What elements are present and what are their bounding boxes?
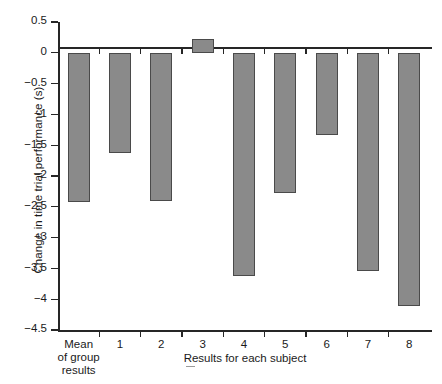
bar (233, 53, 255, 276)
y-tick-label: −0.5 (24, 76, 47, 88)
y-tick-label: −1 (34, 107, 47, 119)
y-tick: −3 (51, 237, 58, 238)
y-tick: −2.5 (51, 206, 58, 207)
y-tick-label: 0.5 (31, 14, 47, 26)
y-tick: −2 (51, 175, 58, 176)
bar (150, 53, 172, 201)
y-tick-label: −3 (34, 230, 47, 242)
x-tick (305, 330, 306, 337)
x-tick (140, 330, 141, 337)
bar (68, 53, 90, 202)
bar (109, 53, 131, 153)
zero-line-tick (347, 48, 348, 54)
y-tick: 0 (51, 52, 58, 53)
y-tick-label: −4 (34, 292, 47, 304)
y-tick-label: −2.5 (24, 199, 47, 211)
zero-line-tick (140, 48, 141, 54)
y-tick: −0.5 (51, 83, 58, 84)
zero-line-tick (223, 48, 224, 54)
zero-line-tick (181, 48, 182, 54)
y-tick: −4.5 (51, 329, 58, 330)
zero-line-tick (99, 48, 100, 54)
x-tick (264, 330, 265, 337)
y-tick: −1.5 (51, 145, 58, 146)
y-tick-label: −1.5 (24, 138, 47, 150)
y-tick: −3.5 (51, 268, 58, 269)
x-tick-label: 8 (383, 338, 436, 351)
x-tick (181, 330, 182, 337)
bar-chart: Change in time trial performance (s) 0.5… (0, 0, 442, 384)
y-axis-line (58, 22, 60, 331)
zero-baseline (58, 47, 432, 49)
y-tick-label: −2 (34, 168, 47, 180)
y-tick-label: −4.5 (24, 322, 47, 334)
y-tick: 0.5 (51, 21, 58, 22)
x-tick (99, 330, 100, 337)
bar (316, 53, 338, 135)
zero-line-tick (388, 48, 389, 54)
x-axis-line (58, 330, 432, 332)
bar (192, 39, 214, 53)
bar (398, 53, 420, 306)
y-tick: −4 (51, 299, 58, 300)
zero-line-tick (264, 48, 265, 54)
x-tick (347, 330, 348, 337)
y-tick-label: −3.5 (24, 261, 47, 273)
y-tick-label: 0 (41, 45, 47, 57)
x-axis-title: Results for each subject (58, 352, 432, 364)
scan-artifact-mark (186, 366, 195, 367)
bar (357, 53, 379, 272)
bar (274, 53, 296, 193)
y-tick: −1 (51, 114, 58, 115)
zero-line-tick (305, 48, 306, 54)
x-tick (388, 330, 389, 337)
x-tick (223, 330, 224, 337)
